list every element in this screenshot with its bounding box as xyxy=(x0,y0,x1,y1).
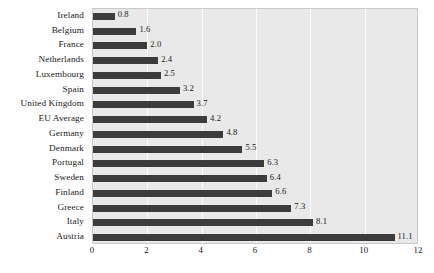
category-label: Germany xyxy=(0,129,88,138)
bar-value-label: 4.8 xyxy=(226,128,237,137)
bar-chart: IrelandBelgiumFranceNetherlandsLuxembour… xyxy=(0,0,434,273)
bar-value-label: 6.4 xyxy=(270,173,281,182)
bar xyxy=(93,87,180,94)
bar xyxy=(93,13,115,20)
bar xyxy=(93,101,194,108)
bar xyxy=(93,72,161,79)
category-label: Portugal xyxy=(0,158,88,167)
bar-value-label: 6.6 xyxy=(275,187,286,196)
gridline xyxy=(419,9,420,243)
bar xyxy=(93,28,136,35)
category-label: Luxembourg xyxy=(0,70,88,79)
category-label: Belgium xyxy=(0,26,88,35)
category-label: Spain xyxy=(0,85,88,94)
category-label: Netherlands xyxy=(0,55,88,64)
category-label: Austria xyxy=(0,232,88,241)
x-tick-label: 8 xyxy=(307,246,311,255)
bar-value-label: 5.5 xyxy=(245,143,256,152)
bar-value-label: 2.4 xyxy=(161,55,172,64)
bar xyxy=(93,131,223,138)
bar-value-label: 7.3 xyxy=(294,202,305,211)
category-label: Ireland xyxy=(0,11,88,20)
x-tick-label: 4 xyxy=(198,246,202,255)
category-label: Italy xyxy=(0,217,88,226)
bar-value-label: 1.6 xyxy=(139,25,150,34)
bar-value-label: 4.2 xyxy=(210,114,221,123)
bar xyxy=(93,175,267,182)
category-label: EU Average xyxy=(0,114,88,123)
bar xyxy=(93,57,158,64)
category-label: Sweden xyxy=(0,173,88,182)
bar-value-label: 11.1 xyxy=(398,232,413,241)
bar xyxy=(93,234,395,241)
bar xyxy=(93,219,313,226)
bar xyxy=(93,160,264,167)
gridline xyxy=(365,9,366,243)
bar-value-label: 2.5 xyxy=(164,69,175,78)
bar xyxy=(93,42,147,49)
bar xyxy=(93,146,242,153)
x-tick-label: 0 xyxy=(90,246,94,255)
bar-value-label: 0.8 xyxy=(118,10,129,19)
category-label: France xyxy=(0,40,88,49)
category-label: Denmark xyxy=(0,144,88,153)
x-axis: 024681012 xyxy=(92,244,418,264)
x-tick-label: 6 xyxy=(253,246,257,255)
category-label: United Kingdom xyxy=(0,99,88,108)
bar-value-label: 3.2 xyxy=(183,84,194,93)
gridline xyxy=(310,9,311,243)
bar xyxy=(93,190,272,197)
bar-value-label: 8.1 xyxy=(316,217,327,226)
bar xyxy=(93,116,207,123)
category-label: Greece xyxy=(0,203,88,212)
bar-value-label: 2.0 xyxy=(150,40,161,49)
x-tick-label: 10 xyxy=(359,246,368,255)
bar-value-label: 3.7 xyxy=(197,99,208,108)
x-tick-label: 2 xyxy=(144,246,148,255)
category-axis: IrelandBelgiumFranceNetherlandsLuxembour… xyxy=(0,8,88,244)
bar xyxy=(93,205,291,212)
category-label: Finland xyxy=(0,188,88,197)
x-tick-label: 12 xyxy=(414,246,423,255)
plot-area: 0.81.62.02.42.53.23.74.24.85.56.36.46.67… xyxy=(92,8,418,244)
bar-value-label: 6.3 xyxy=(267,158,278,167)
